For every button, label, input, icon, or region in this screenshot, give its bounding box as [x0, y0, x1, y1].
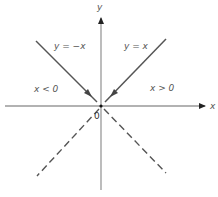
- x-axis-label: x: [209, 101, 216, 111]
- region-label-left: x < 0: [33, 84, 59, 94]
- origin-label: 0: [94, 111, 100, 121]
- dashed-line-lower-right: [104, 109, 166, 173]
- origin-point: [99, 104, 102, 107]
- dashed-line-lower-left: [37, 109, 99, 176]
- line-label-y-eq-x: y = x: [123, 41, 149, 51]
- line-label-y-neg-x: y = −x: [53, 41, 86, 51]
- y-axis-label: y: [96, 2, 103, 12]
- region-label-right: x > 0: [149, 83, 175, 93]
- absolute-value-diagram: y x 0 y = −x y = x x < 0 x > 0: [0, 0, 218, 197]
